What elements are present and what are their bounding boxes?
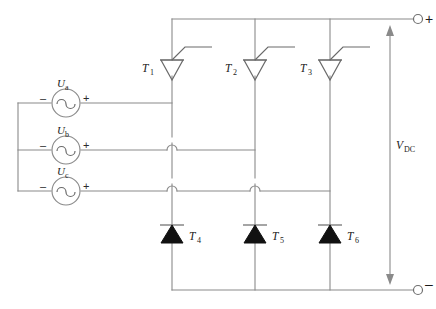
thyristor-t3-label: T <box>300 62 308 74</box>
vdc-measurement-arrow <box>386 25 394 285</box>
circuit-schematic-canvas: T 1 T 2 T 3 T 4 T 5 T 6 <box>0 0 436 309</box>
source-ub[interactable]: U b – + <box>40 124 89 164</box>
dc-positive-terminal-label: + <box>425 11 433 27</box>
dc-positive-terminal[interactable]: + <box>414 11 434 27</box>
source-ua-minus-sign: – <box>40 92 47 104</box>
thyristor-t5-label: T <box>272 230 280 242</box>
thyristor-t4-label: T <box>189 230 197 242</box>
source-uc-subscript: c <box>65 171 69 180</box>
source-uc-plus-sign: + <box>83 180 89 192</box>
source-ua-plus-sign: + <box>83 92 89 104</box>
thyristor-t5-subscript: 5 <box>280 236 284 245</box>
source-ub-minus-sign: – <box>40 139 47 151</box>
vdc-label: V DC <box>396 139 415 154</box>
thyristor-t2-subscript: 2 <box>233 68 237 77</box>
source-ua[interactable]: U a – + <box>40 77 89 117</box>
thyristor-t3-subscript: 3 <box>308 68 312 77</box>
source-uc-minus-sign: – <box>40 180 47 192</box>
source-uc[interactable]: U c – + <box>40 165 89 205</box>
vdc-subscript: DC <box>404 145 415 154</box>
source-ua-subscript: a <box>65 83 69 92</box>
phase-c-line <box>81 186 330 191</box>
thyristor-t5[interactable]: T 5 <box>243 225 284 245</box>
circuit-diagram-figure: T 1 T 2 T 3 T 4 T 5 T 6 <box>0 0 436 309</box>
thyristor-t4[interactable]: T 4 <box>160 225 201 245</box>
source-ub-plus-sign: + <box>83 139 89 151</box>
phase-b-line <box>81 145 255 150</box>
thyristor-t1[interactable]: T 1 <box>142 47 212 80</box>
thyristor-t1-label: T <box>142 62 150 74</box>
source-ub-subscript: b <box>65 130 69 139</box>
thyristor-t6[interactable]: T 6 <box>318 225 359 245</box>
thyristor-t3[interactable]: T 3 <box>300 47 370 80</box>
dc-negative-terminal-label: – <box>425 276 433 292</box>
thyristor-t6-subscript: 6 <box>355 236 359 245</box>
thyristor-t4-subscript: 4 <box>197 236 201 245</box>
thyristor-t2-label: T <box>225 62 233 74</box>
dc-negative-terminal[interactable]: – <box>414 276 434 295</box>
thyristor-t2[interactable]: T 2 <box>225 47 295 80</box>
thyristor-t6-label: T <box>347 230 355 242</box>
thyristor-t1-subscript: 1 <box>150 68 154 77</box>
